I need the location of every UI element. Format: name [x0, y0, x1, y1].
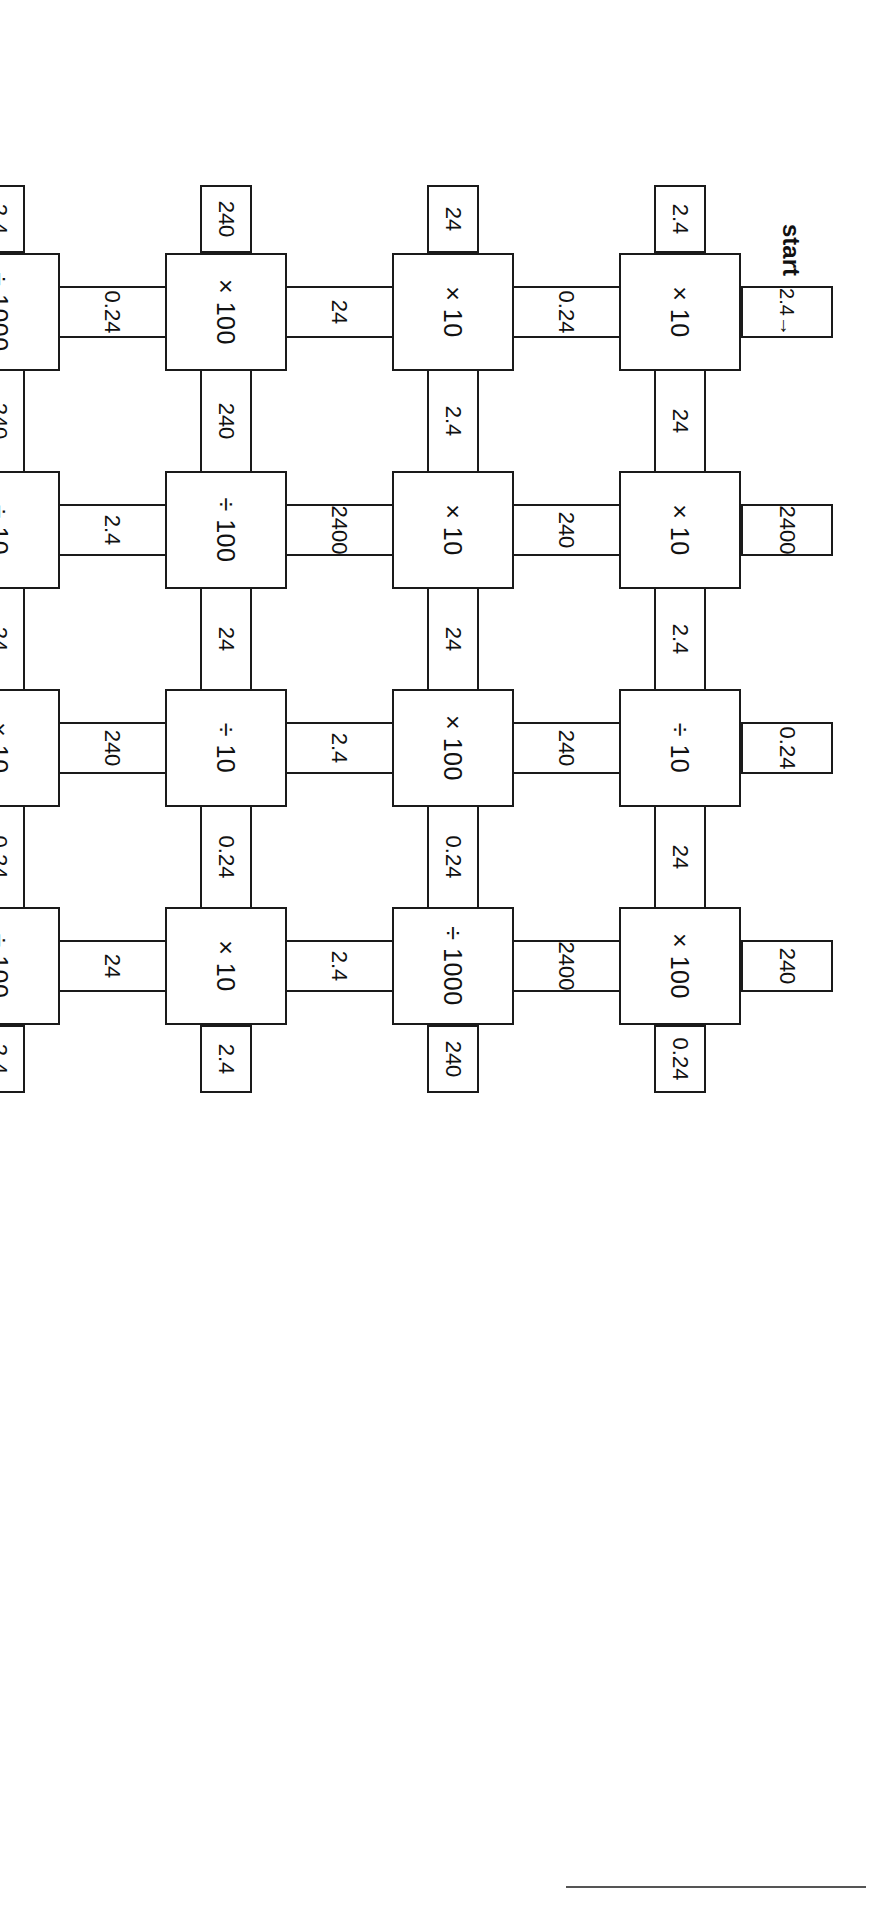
right-tail-r4: 2.4: [0, 1025, 25, 1093]
v-connector-r3-c3: 240: [60, 722, 165, 774]
left-tail-r2: 24: [427, 185, 479, 253]
left-tail-r1: 2.4: [654, 185, 706, 253]
v-connector-r1-c4: 2400: [514, 940, 619, 992]
operation-box-r1-c2[interactable]: × 10: [619, 471, 741, 589]
footer-rule: [566, 1886, 866, 1888]
start-tail: 2.4→: [741, 286, 833, 338]
start-label: start: [777, 224, 805, 276]
h-connector-r1-c3: 24: [654, 807, 706, 907]
v-connector-r1-c2: 240: [514, 504, 619, 556]
v-connector-r2-c3: 2.4: [287, 722, 392, 774]
v-connector-r3-c1: 0.24: [60, 286, 165, 338]
operation-box-r4-c2[interactable]: ÷ 10: [0, 471, 60, 589]
operation-box-r2-c2[interactable]: × 10: [392, 471, 514, 589]
rotated-diagram-wrapper: × 10× 10÷ 10× 100× 10× 10× 100÷ 1000× 10…: [25, 68, 859, 1858]
v-connector-r3-c2: 2.4: [60, 504, 165, 556]
operation-box-r3-c3[interactable]: ÷ 10: [165, 689, 287, 807]
operation-box-r2-c4[interactable]: ÷ 1000: [392, 907, 514, 1025]
maze-canvas: × 10× 10÷ 10× 100× 10× 10× 100÷ 1000× 10…: [25, 68, 859, 1858]
operation-box-r2-c3[interactable]: × 100: [392, 689, 514, 807]
operation-box-r4-c1[interactable]: ÷ 1000: [0, 253, 60, 371]
v-connector-r2-c4: 2.4: [287, 940, 392, 992]
v-connector-r2-c1: 24: [287, 286, 392, 338]
right-tail-r2: 240: [427, 1025, 479, 1093]
h-connector-r2-c1: 2.4: [427, 371, 479, 471]
v-connector-r1-c3: 240: [514, 722, 619, 774]
v-connector-r2-c2: 2400: [287, 504, 392, 556]
h-connector-r3-c3: 0.24: [200, 807, 252, 907]
h-connector-r4-c3: 0.24: [0, 807, 25, 907]
operation-box-r3-c1[interactable]: × 100: [165, 253, 287, 371]
top-tail-c3: 0.24: [741, 722, 833, 774]
operation-box-r1-c1[interactable]: × 10: [619, 253, 741, 371]
h-connector-r4-c1: 240: [0, 371, 25, 471]
top-tail-c2: 2400: [741, 504, 833, 556]
operation-box-r4-c3[interactable]: × 10: [0, 689, 60, 807]
operation-box-r4-c4[interactable]: ÷ 100: [0, 907, 60, 1025]
operation-box-r1-c3[interactable]: ÷ 10: [619, 689, 741, 807]
h-connector-r2-c2: 24: [427, 589, 479, 689]
maze-page: × 10× 10÷ 10× 100× 10× 10× 100÷ 1000× 10…: [0, 0, 884, 1926]
left-tail-r4: 2.4: [0, 185, 25, 253]
h-connector-r1-c2: 2.4: [654, 589, 706, 689]
h-connector-r4-c2: 24: [0, 589, 25, 689]
h-connector-r3-c2: 24: [200, 589, 252, 689]
v-connector-r1-c1: 0.24: [514, 286, 619, 338]
right-tail-r3: 2.4: [200, 1025, 252, 1093]
h-connector-r3-c1: 240: [200, 371, 252, 471]
v-connector-r3-c4: 24: [60, 940, 165, 992]
operation-box-r2-c1[interactable]: × 10: [392, 253, 514, 371]
left-tail-r3: 240: [200, 185, 252, 253]
operation-box-r3-c2[interactable]: ÷ 100: [165, 471, 287, 589]
operation-box-r1-c4[interactable]: × 100: [619, 907, 741, 1025]
h-connector-r1-c1: 24: [654, 371, 706, 471]
h-connector-r2-c3: 0.24: [427, 807, 479, 907]
right-tail-r1: 0.24: [654, 1025, 706, 1093]
top-tail-c4: 240: [741, 940, 833, 992]
operation-box-r3-c4[interactable]: × 10: [165, 907, 287, 1025]
